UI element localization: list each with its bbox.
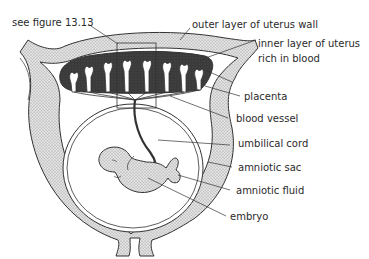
placenta [60,51,213,93]
label-embryo: embryo [230,211,268,222]
label-inner-layer-2: rich in blood [258,53,320,64]
label-amniotic-sac: amniotic sac [238,162,301,173]
label-blood-vessel: blood vessel [236,113,298,124]
label-inner-layer-1: inner layer of uterus [258,38,360,49]
label-placenta: placenta [244,91,287,102]
label-umbilical-cord: umbilical cord [238,138,308,149]
label-outer-layer: outer layer of uterus wall [192,19,318,30]
uterus-diagram: see figure 13.13 outer layer of uterus w… [0,0,369,259]
label-see-figure: see figure 13.13 [12,17,94,28]
label-amniotic-fluid: amniotic fluid [236,185,304,196]
